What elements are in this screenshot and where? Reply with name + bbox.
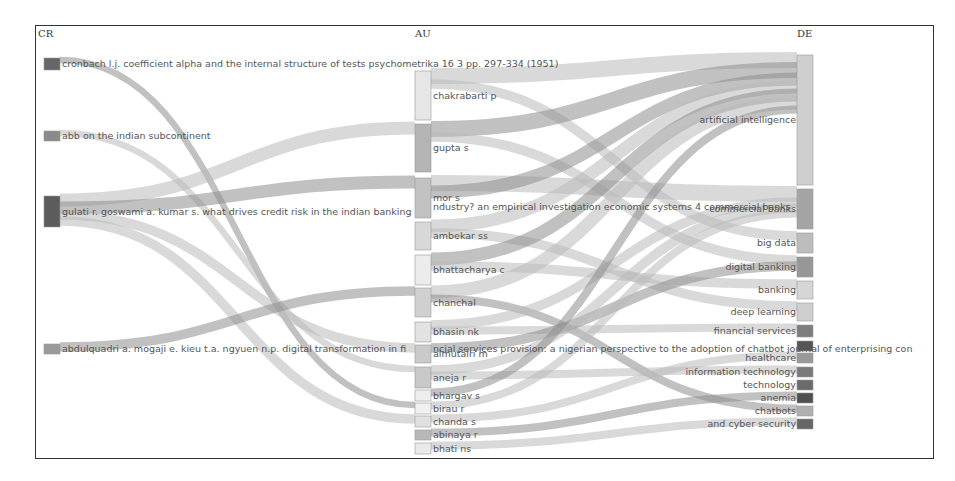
node-label-de: digital banking xyxy=(725,261,796,272)
sankey-node-au[interactable] xyxy=(415,222,431,250)
node-label-de: artificial intelligence xyxy=(699,114,796,125)
sankey-node-au[interactable] xyxy=(415,288,431,317)
sankey-node-au[interactable] xyxy=(415,390,431,401)
node-label-au: gupta s xyxy=(433,142,469,153)
node-label-au: birau r xyxy=(433,403,464,414)
overflow-label-gulati: ndustry? an empirical investigation econ… xyxy=(433,201,791,212)
node-label-cr: abdulquadri a. mogaji e. kieu t.a. ngyue… xyxy=(62,343,406,354)
node-label-au: ambekar ss xyxy=(433,230,488,241)
sankey-node-cr[interactable] xyxy=(44,196,60,227)
node-label-de: information technology xyxy=(685,366,796,377)
node-label-cr: cronbach l.j. coefficient alpha and the … xyxy=(62,58,558,69)
sankey-node-au[interactable] xyxy=(415,322,431,342)
sankey-node-de[interactable] xyxy=(797,281,813,299)
sankey-node-au[interactable] xyxy=(415,178,431,218)
sankey-node-de[interactable] xyxy=(797,233,813,253)
sankey-node-cr[interactable] xyxy=(44,58,60,70)
node-label-au: bhattacharya c xyxy=(433,264,505,275)
sankey-node-au[interactable] xyxy=(415,430,431,440)
sankey-node-de[interactable] xyxy=(797,189,813,229)
node-label-au: chanda s xyxy=(433,416,476,427)
node-label-au: abinaya r xyxy=(433,429,478,440)
sankey-node-de[interactable] xyxy=(797,380,813,390)
node-label-au: bhargav s xyxy=(433,390,480,401)
sankey-node-de[interactable] xyxy=(797,353,813,363)
overflow-label-abdulquadri: ncial services provision: a nigerian per… xyxy=(433,343,912,354)
sankey-node-au[interactable] xyxy=(415,124,431,172)
node-label-de: deep learning xyxy=(730,306,796,317)
sankey-node-au[interactable] xyxy=(415,255,431,285)
sankey-node-au[interactable] xyxy=(415,71,431,120)
node-label-au: bhasin nk xyxy=(433,326,479,337)
sankey-node-au[interactable] xyxy=(415,416,431,427)
node-label-cr: abb on the indian subcontinent xyxy=(62,130,211,141)
node-label-de: big data xyxy=(757,237,796,248)
sankey-node-de[interactable] xyxy=(797,257,813,277)
sankey-node-de[interactable] xyxy=(797,303,813,321)
node-label-de: technology xyxy=(743,379,796,390)
node-label-au: chakrabarti p xyxy=(433,90,496,101)
sankey-node-au[interactable] xyxy=(415,443,431,454)
node-label-de: and cyber security xyxy=(708,418,796,429)
sankey-node-au[interactable] xyxy=(415,403,431,414)
node-label-de: chatbots xyxy=(755,405,796,416)
sankey-node-de[interactable] xyxy=(797,367,813,377)
sankey-node-de[interactable] xyxy=(797,325,813,337)
node-label-au: bhati ns xyxy=(433,443,471,454)
sankey-node-cr[interactable] xyxy=(44,131,60,141)
node-label-cr: gulati r. goswami a. kumar s. what drive… xyxy=(62,206,411,217)
sankey-node-au[interactable] xyxy=(415,345,431,363)
sankey-node-de[interactable] xyxy=(797,55,813,185)
node-label-de: anemia xyxy=(761,392,796,403)
sankey-node-de[interactable] xyxy=(797,419,813,429)
node-label-de: financial services xyxy=(714,325,796,336)
node-label-au: chanchal xyxy=(433,297,476,308)
sankey-node-de[interactable] xyxy=(797,406,813,416)
node-label-au: aneja r xyxy=(433,372,466,383)
sankey-node-au[interactable] xyxy=(415,367,431,388)
sankey-node-de[interactable] xyxy=(797,393,813,403)
sankey-node-cr[interactable] xyxy=(44,344,60,354)
node-label-de: banking xyxy=(758,284,796,295)
